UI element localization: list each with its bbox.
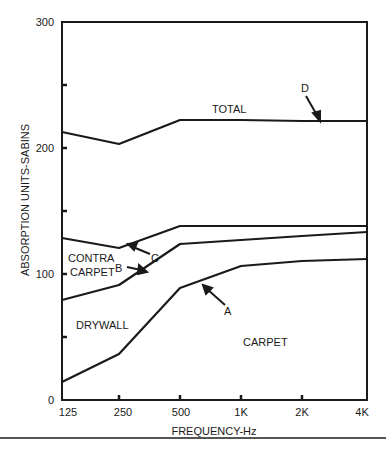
region-label-drywall: DRYWALL bbox=[76, 319, 129, 331]
y-tick-200: 200 bbox=[36, 142, 54, 154]
region-label-contra: CONTRA bbox=[68, 252, 115, 264]
region-label-contra-carpet: CARPET bbox=[70, 266, 115, 278]
x-tick-2k: 2K bbox=[295, 406, 309, 418]
x-tick-500: 500 bbox=[172, 406, 190, 418]
y-tick-300: 300 bbox=[36, 16, 54, 28]
y-tick-0: 0 bbox=[48, 394, 54, 406]
arrow-d-head bbox=[313, 111, 320, 121]
label-d: D bbox=[301, 82, 309, 94]
y-tick-100: 100 bbox=[36, 268, 54, 280]
plot-frame bbox=[62, 22, 367, 400]
region-label-total: TOTAL bbox=[212, 103, 246, 115]
y-axis-title: ABSORPTION UNITS-SABINS bbox=[19, 124, 31, 276]
x-tick-125: 125 bbox=[59, 406, 77, 418]
x-tick-250: 250 bbox=[114, 406, 132, 418]
label-c: C bbox=[151, 252, 159, 264]
x-tick-4k: 4K bbox=[355, 406, 369, 418]
bottom-divider bbox=[0, 437, 386, 439]
label-a: A bbox=[224, 305, 232, 317]
chart: 300 200 100 0 125 250 500 1K 2K 4K FREQU… bbox=[0, 0, 386, 451]
pointer-arrows bbox=[127, 96, 320, 305]
series-c-line bbox=[62, 226, 367, 248]
label-b: B bbox=[115, 262, 122, 274]
series-d-line bbox=[62, 120, 367, 144]
x-axis-title: FREQUENCY-Hz bbox=[171, 425, 256, 437]
x-tick-1k: 1K bbox=[234, 406, 248, 418]
region-label-carpet: CARPET bbox=[243, 336, 288, 348]
